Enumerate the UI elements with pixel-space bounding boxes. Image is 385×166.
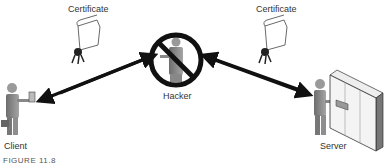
client-figure-icon [1,83,35,135]
client-label: Client [4,141,27,151]
server-rack-icon [330,70,383,151]
certificate-left-label: Certificate [68,4,109,14]
certificate-left-icon [72,15,100,64]
hacker-label: Hacker [163,91,192,101]
arrow-client-to-hacker [60,57,150,93]
certificate-right-icon [259,15,287,64]
diagram: Certificate Certificate Hacker Client Se… [0,0,385,166]
certificate-right-label: Certificate [256,4,297,14]
figure-caption: FIGURE 11.8 [3,156,56,165]
arrow-hacker-to-server [215,60,305,93]
server-label: Server [320,141,347,151]
